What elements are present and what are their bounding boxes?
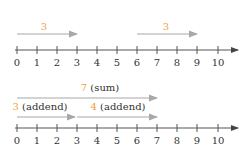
tick-label: 3	[74, 136, 80, 146]
tick-label: 0	[14, 58, 20, 68]
sum-label: 7 (sum)	[81, 83, 119, 93]
addend-suffix: (addend)	[19, 101, 68, 112]
addend-label-2: 4 (addend)	[91, 102, 146, 112]
top-arrow-label-1: 3	[41, 22, 47, 32]
top-number-line	[15, 46, 238, 54]
tick-label: 7	[154, 136, 160, 146]
tick-label: 6	[134, 58, 140, 68]
tick-label: 0	[14, 136, 20, 146]
tick-label: 5	[114, 58, 120, 68]
tick-label: 9	[194, 58, 200, 68]
tick-label: 10	[212, 136, 225, 146]
tick-label: 2	[54, 136, 60, 146]
addend-label-1: 3 (addend)	[13, 102, 68, 112]
jump-number: 3	[41, 21, 47, 32]
tick-label: 9	[194, 136, 200, 146]
tick-label: 10	[212, 58, 225, 68]
top-arrow-label-2: 3	[163, 22, 169, 32]
jump-number: 3	[163, 21, 169, 32]
tick-label: 1	[34, 136, 40, 146]
tick-label: 6	[134, 136, 140, 146]
tick-label: 5	[114, 136, 120, 146]
number-line-diagrams	[0, 0, 247, 150]
tick-label: 4	[94, 136, 100, 146]
tick-label: 7	[154, 58, 160, 68]
tick-label: 4	[94, 58, 100, 68]
tick-label: 8	[174, 136, 180, 146]
sum-suffix: (sum)	[87, 82, 119, 93]
addend-suffix: (addend)	[97, 101, 146, 112]
tick-label: 2	[54, 58, 60, 68]
tick-label: 1	[34, 58, 40, 68]
bottom-number-line	[15, 124, 238, 132]
tick-label: 3	[74, 58, 80, 68]
tick-label: 8	[174, 58, 180, 68]
